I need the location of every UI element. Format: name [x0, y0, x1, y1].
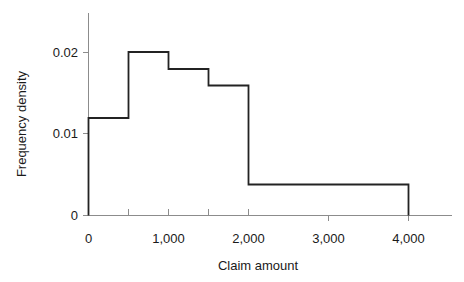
- x-tick-label-1000: 1,000: [152, 231, 185, 246]
- x-tick-label-3000: 3,000: [312, 231, 345, 246]
- y-tick-label-0.01: 0.01: [53, 126, 78, 141]
- y-tick-label-0.02: 0.02: [53, 45, 78, 60]
- histogram-figure: 0 0.01 0.02 0 1,000 2,000 3,000 4,000 Fr…: [0, 0, 464, 282]
- y-axis-tick-labels: 0 0.01 0.02: [53, 45, 78, 223]
- x-tick-label-2000: 2,000: [232, 231, 265, 246]
- x-tick-label-0: 0: [85, 231, 92, 246]
- y-axis-title: Frequency density: [14, 70, 29, 177]
- histogram-bars: [89, 52, 409, 216]
- frequency-density-histogram: 0 0.01 0.02 0 1,000 2,000 3,000 4,000 Fr…: [0, 0, 464, 282]
- x-axis-tick-labels: 0 1,000 2,000 3,000 4,000: [85, 231, 425, 246]
- x-tick-label-4000: 4,000: [392, 231, 425, 246]
- x-axis-title: Claim amount: [218, 258, 299, 273]
- y-tick-label-0: 0: [71, 208, 78, 223]
